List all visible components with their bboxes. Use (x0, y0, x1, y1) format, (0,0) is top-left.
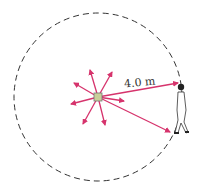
point-source (94, 93, 102, 101)
diagram-canvas (0, 0, 205, 192)
